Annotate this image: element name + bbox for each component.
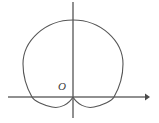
figure-canvas: O xyxy=(0,0,159,123)
x-axis-arrowhead-icon xyxy=(145,94,150,101)
x-axis xyxy=(8,94,150,101)
math-plot-svg xyxy=(0,0,159,123)
origin-label: O xyxy=(58,81,66,92)
